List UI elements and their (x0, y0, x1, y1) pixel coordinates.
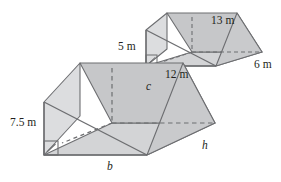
label-b: b (107, 161, 113, 173)
label-6m: 6 m (254, 59, 272, 71)
label-c: c (146, 81, 151, 93)
small-triangular-prism (146, 13, 262, 66)
label-12m: 12 m (165, 69, 188, 81)
large-triangular-prism (44, 63, 215, 155)
prisms-drawing (0, 0, 281, 182)
geometry-figure: 5 m 13 m 12 m 6 m 7.5 m c b h (0, 0, 281, 182)
label-h: h (202, 140, 208, 152)
label-13m: 13 m (211, 15, 234, 27)
label-5m: 5 m (118, 41, 136, 53)
label-7-5m: 7.5 m (10, 117, 36, 129)
